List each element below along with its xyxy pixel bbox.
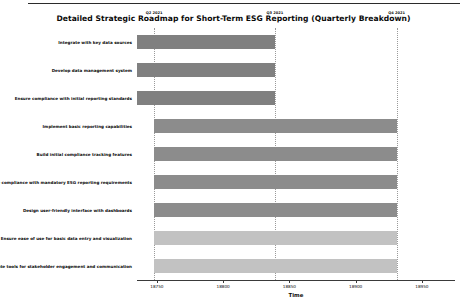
gantt-bar	[137, 91, 275, 105]
x-axis-title: Time	[137, 292, 455, 298]
quarter-gridline	[397, 28, 398, 280]
gantt-bar	[154, 203, 396, 217]
chart-title: Detailed Strategic Roadmap for Short-Ter…	[0, 14, 467, 23]
gantt-bar	[154, 119, 396, 133]
gantt-bar	[137, 63, 275, 77]
x-axis-tick	[223, 280, 224, 283]
gantt-bar	[137, 35, 275, 49]
quarter-marker-label: Q2 2021	[146, 11, 163, 15]
task-label: Integrate with key data sources	[58, 40, 132, 45]
x-axis-tick-label: 18950	[415, 284, 428, 289]
x-axis-tick	[157, 280, 158, 283]
task-label: Create tools for stakeholder engagement …	[0, 264, 132, 269]
task-label: Ensure compliance with mandatory ESG rep…	[0, 180, 132, 185]
task-label: Build initial compliance tracking featur…	[37, 152, 132, 157]
x-axis-tick-label: 18800	[216, 284, 229, 289]
x-axis-line	[137, 280, 455, 281]
gantt-bar	[154, 175, 396, 189]
x-axis-tick-label: 18750	[150, 284, 163, 289]
x-axis-tick-label: 18900	[349, 284, 362, 289]
gantt-bar	[154, 147, 396, 161]
x-axis-tick	[289, 280, 290, 283]
task-label: Ensure ease of use for basic data entry …	[1, 236, 132, 241]
task-label: Implement basic reporting capabilities	[43, 124, 132, 129]
x-axis-tick-label: 18850	[283, 284, 296, 289]
gantt-bar	[154, 259, 396, 273]
quarter-marker-label: Q3 2021	[266, 11, 283, 15]
x-axis-tick	[356, 280, 357, 283]
gantt-bar	[154, 231, 396, 245]
gantt-chart-figure: Detailed Strategic Roadmap for Short-Ter…	[0, 0, 467, 308]
plot-area: Q2 2021Q3 2021Q4 2021	[137, 28, 455, 280]
quarter-marker-label: Q4 2021	[388, 11, 405, 15]
task-label: Design user-friendly interface with dash…	[23, 208, 132, 213]
figure-top-rule	[28, 3, 460, 4]
x-axis-tick	[422, 280, 423, 283]
task-label: Develop data management system	[52, 68, 132, 73]
task-label: Ensure compliance with initial reporting…	[15, 96, 132, 101]
task-label-column: Integrate with key data sourcesDevelop d…	[0, 28, 132, 280]
